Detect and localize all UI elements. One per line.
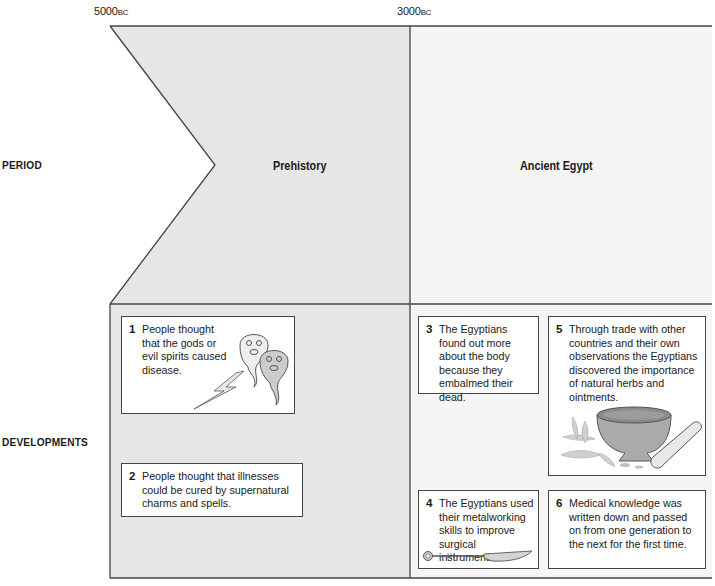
mid-date-year: 3000 (397, 5, 421, 17)
ghosts-lightning-icon (188, 327, 294, 411)
developments-row-label: DEVELOPMENTS (2, 436, 88, 448)
development-number: 4 (426, 497, 432, 511)
development-text: Through trade with other countries and t… (569, 323, 699, 404)
start-date-era: BC (118, 8, 129, 17)
development-box-2: 2 People thought that illnesses could be… (121, 463, 303, 517)
mortar-pestle-herbs-icon (555, 397, 703, 473)
start-date-year: 5000 (94, 5, 118, 17)
mid-date-label: 3000BC (397, 5, 431, 17)
development-box-4: 4 The Egyptians used their metalworking … (418, 490, 539, 569)
surgical-knife-icon (422, 547, 536, 565)
development-number: 5 (556, 323, 562, 337)
development-box-1: 1 People thought that the gods or evil s… (121, 316, 295, 414)
period-row-label: PERIOD (2, 159, 42, 171)
development-number: 6 (556, 497, 562, 511)
development-text: Medical knowledge was written down and p… (569, 497, 697, 551)
start-date-label: 5000BC (94, 5, 128, 17)
development-number: 1 (129, 323, 135, 337)
development-text: The Egyptians found out more about the b… (439, 323, 536, 404)
period-title-ancient-egypt: Ancient Egypt (520, 159, 593, 173)
development-number: 2 (129, 470, 135, 484)
mid-date-era: BC (421, 8, 432, 17)
prehistory-period-shape (110, 26, 410, 304)
development-text: People thought that illnesses could be c… (142, 470, 296, 511)
development-box-6: 6 Medical knowledge was written down and… (548, 490, 706, 569)
period-title-prehistory: Prehistory (273, 159, 326, 173)
development-number: 3 (426, 323, 432, 337)
development-box-5: 5 Through trade with other countries and… (548, 316, 706, 476)
development-box-3: 3 The Egyptians found out more about the… (418, 316, 539, 394)
